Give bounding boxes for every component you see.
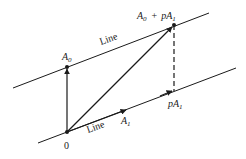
- point-origin: [65, 130, 69, 134]
- label-pa1: pA1: [167, 98, 183, 111]
- point-a0-plus-pa1: [172, 23, 176, 27]
- label-top-line: Line: [98, 30, 120, 47]
- vector-line-diagram: 0 A0 A0+pA1 pA1 A1 Line Line: [0, 0, 246, 159]
- label-origin: 0: [64, 140, 69, 151]
- label-a0: A0: [61, 51, 72, 64]
- point-a0: [65, 65, 69, 69]
- label-a1: A1: [120, 115, 131, 128]
- vector-a0-plus-pa1: [67, 27, 172, 132]
- label-bottom-line: Line: [85, 118, 107, 135]
- label-a0-plus-pa1: A0+pA1: [136, 10, 176, 23]
- top-line: [13, 13, 209, 88]
- vector-pa1-arrow: [160, 91, 172, 96]
